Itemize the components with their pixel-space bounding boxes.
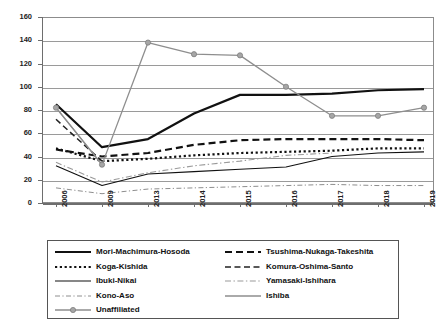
data-point <box>237 53 242 58</box>
legend-item-komura-oshima-santo[interactable]: Komura-Oshima-Santo <box>224 260 373 275</box>
legend-column-left: Mori-Machimura-HosodaKoga-KishidaIbuki-N… <box>54 245 190 318</box>
y-tick-label-100: 100 <box>2 83 32 91</box>
x-tick-2009 <box>102 203 103 207</box>
legend-label: Tsushima-Nukaga-Takeshita <box>266 247 373 257</box>
legend-label: Ibuki-Nikai <box>96 276 136 286</box>
x-tick-label-2013: 2013 <box>152 190 161 207</box>
legend-item-koga-kishida[interactable]: Koga-Kishida <box>54 260 190 275</box>
legend-line-swatch <box>224 290 262 302</box>
series-lines <box>42 17 434 203</box>
data-point <box>191 52 196 57</box>
x-tick-label-2018: 2018 <box>382 190 391 207</box>
x-tick-label-2014: 2014 <box>198 190 207 207</box>
legend-item-ishiba[interactable]: Ishiba <box>224 289 373 304</box>
legend-label: Mori-Machimura-Hosoda <box>96 247 190 257</box>
y-tick-label-80: 80 <box>2 106 32 114</box>
y-tick-label-60: 60 <box>2 129 32 137</box>
legend-label: Kono-Aso <box>96 291 134 301</box>
data-point <box>99 162 104 167</box>
x-tick-2018 <box>378 203 379 207</box>
legend-label: Komura-Oshima-Santo <box>266 262 353 272</box>
legend-line-swatch <box>54 275 92 287</box>
data-point <box>375 113 380 118</box>
x-tick-2019 <box>424 203 425 207</box>
chart-root: 020406080100120140160 200620092013201420… <box>0 0 446 329</box>
legend-line-swatch <box>224 275 262 287</box>
legend-item-tsushima-nukaga-takeshita[interactable]: Tsushima-Nukaga-Takeshita <box>224 245 373 260</box>
legend-item-kono-aso[interactable]: Kono-Aso <box>54 289 190 304</box>
data-point <box>421 105 426 110</box>
series-yamasaki-ishihara <box>56 153 332 182</box>
y-tick-label-0: 0 <box>2 199 32 207</box>
legend-label: Ishiba <box>266 291 289 301</box>
x-tick-label-2017: 2017 <box>336 190 345 207</box>
x-axis-spine <box>42 203 435 204</box>
x-tick-label-2009: 2009 <box>106 190 115 207</box>
x-tick-2015 <box>240 203 241 207</box>
x-tick-2017 <box>332 203 333 207</box>
data-point <box>329 113 334 118</box>
x-tick-2006 <box>56 203 57 207</box>
legend-item-mori-machimura-hosoda[interactable]: Mori-Machimura-Hosoda <box>54 245 190 260</box>
x-tick-2016 <box>286 203 287 207</box>
x-tick-label-2006: 2006 <box>60 190 69 207</box>
y-tick-label-20: 20 <box>2 176 32 184</box>
x-tick-label-2016: 2016 <box>290 190 299 207</box>
x-tick-2014 <box>194 203 195 207</box>
legend-label: Unaffiliated <box>96 305 140 315</box>
legend-column-right: Tsushima-Nukaga-TakeshitaKomura-Oshima-S… <box>224 245 373 303</box>
y-tick-label-120: 120 <box>2 60 32 68</box>
legend-line-swatch <box>54 304 92 316</box>
legend-label: Koga-Kishida <box>96 262 148 272</box>
y-tick-label-140: 140 <box>2 36 32 44</box>
legend-label: Yamasaki-Ishihara <box>266 276 336 286</box>
x-tick-2013 <box>148 203 149 207</box>
data-point <box>53 105 58 110</box>
series-unaffiliated <box>53 40 426 167</box>
legend-line-swatch <box>54 261 92 273</box>
legend-line-swatch <box>54 290 92 302</box>
data-point <box>283 84 288 89</box>
legend-item-ibuki-nikai[interactable]: Ibuki-Nikai <box>54 274 190 289</box>
x-tick-label-2015: 2015 <box>244 190 253 207</box>
legend-item-unaffiliated[interactable]: Unaffiliated <box>54 303 190 318</box>
legend: Mori-Machimura-HosodaKoga-KishidaIbuki-N… <box>47 240 399 319</box>
x-tick-label-2019: 2019 <box>428 190 437 207</box>
legend-line-swatch <box>54 246 92 258</box>
legend-line-swatch <box>224 261 262 273</box>
data-point <box>145 40 150 45</box>
legend-line-swatch <box>224 246 262 258</box>
y-tick-label-40: 40 <box>2 153 32 161</box>
y-tick-label-160: 160 <box>2 13 32 21</box>
legend-item-yamasaki-ishihara[interactable]: Yamasaki-Ishihara <box>224 274 373 289</box>
